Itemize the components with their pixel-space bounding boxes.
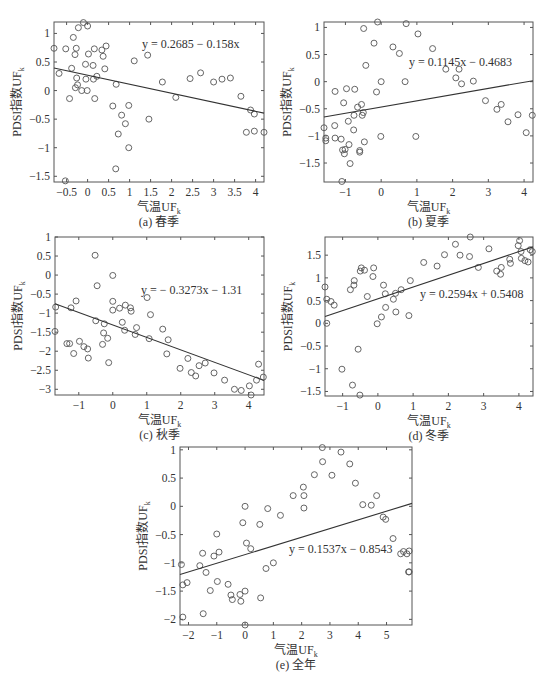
data-point bbox=[452, 241, 458, 247]
x-tick-label: 0 bbox=[378, 186, 384, 198]
x-axis-label: 气温UFk bbox=[138, 412, 181, 429]
x-tick-label: 0 bbox=[375, 400, 381, 412]
data-point bbox=[361, 26, 367, 32]
x-tick-label: −2 bbox=[182, 629, 194, 641]
x-tick-label: 1 bbox=[144, 399, 150, 411]
data-point bbox=[355, 346, 361, 352]
scatter-points bbox=[178, 445, 412, 628]
plot-frame bbox=[325, 237, 533, 396]
data-point bbox=[83, 76, 89, 82]
y-tick-label: −1.5 bbox=[155, 585, 176, 597]
data-point bbox=[482, 98, 488, 104]
data-point bbox=[126, 102, 132, 108]
data-point bbox=[352, 480, 358, 486]
x-axis-label: 气温UFk bbox=[274, 642, 317, 659]
data-point bbox=[393, 309, 399, 315]
x-tick-label: 1.5 bbox=[143, 186, 158, 198]
data-point bbox=[159, 79, 165, 85]
data-point bbox=[383, 304, 389, 310]
data-point bbox=[339, 178, 345, 184]
data-point bbox=[246, 383, 252, 389]
data-point bbox=[219, 76, 225, 82]
data-point bbox=[459, 81, 465, 87]
x-tick-label: 4 bbox=[516, 400, 522, 412]
y-tick-label: 1 bbox=[170, 444, 176, 456]
panel-caption: (a) 春季 bbox=[139, 215, 179, 229]
x-axis-label: 气温UFk bbox=[137, 199, 180, 216]
data-point bbox=[486, 246, 492, 252]
data-point bbox=[146, 116, 152, 122]
x-tick-label: 5 bbox=[384, 629, 390, 641]
data-point bbox=[515, 112, 521, 118]
data-point bbox=[351, 127, 357, 133]
data-point bbox=[211, 370, 217, 376]
data-point bbox=[374, 321, 380, 327]
x-tick-label: 4 bbox=[521, 186, 527, 198]
data-point bbox=[69, 65, 75, 71]
y-axis-label: PDSI指数UFk bbox=[279, 67, 296, 136]
y-tick-label: 0 bbox=[315, 317, 321, 329]
data-point bbox=[361, 139, 367, 145]
data-point bbox=[453, 75, 459, 81]
y-axis-label: PDSI指数UFk bbox=[135, 501, 152, 570]
y-tick-label: 1 bbox=[314, 21, 320, 33]
data-point bbox=[374, 493, 380, 499]
data-point bbox=[390, 296, 396, 302]
regression-line bbox=[54, 68, 264, 113]
x-axis-label: 气温UFk bbox=[407, 199, 450, 216]
data-point bbox=[421, 259, 427, 265]
data-point bbox=[165, 337, 171, 343]
data-point bbox=[378, 79, 384, 85]
data-point bbox=[76, 338, 82, 344]
data-point bbox=[128, 308, 134, 314]
data-point bbox=[320, 459, 326, 465]
data-point bbox=[202, 360, 208, 366]
data-point bbox=[364, 294, 370, 300]
scatter-points bbox=[52, 252, 266, 398]
data-point bbox=[227, 75, 233, 81]
data-point bbox=[363, 62, 369, 68]
data-point bbox=[56, 70, 62, 76]
y-tick-label: 1 bbox=[44, 27, 50, 39]
y-tick-label: 1 bbox=[315, 272, 321, 284]
data-point bbox=[134, 325, 140, 331]
data-point bbox=[63, 46, 69, 52]
y-tick-label: 0 bbox=[314, 76, 320, 88]
panel-e-annual: −2−1012345−2−1.5−1−0.500.51y = 0.1537x −… bbox=[135, 444, 412, 672]
regression-equation: y = 0.1145x − 0.4683 bbox=[409, 55, 512, 69]
data-point bbox=[498, 101, 504, 107]
data-point bbox=[115, 131, 121, 137]
data-point bbox=[378, 314, 384, 320]
data-point bbox=[225, 581, 231, 587]
data-point bbox=[338, 136, 344, 142]
data-point bbox=[300, 484, 306, 490]
y-tick-label: 0.5 bbox=[307, 295, 322, 307]
data-point bbox=[94, 283, 100, 289]
data-point bbox=[329, 472, 335, 478]
x-tick-label: 3 bbox=[212, 399, 218, 411]
data-point bbox=[74, 75, 80, 81]
x-tick-label: −1 bbox=[337, 400, 349, 412]
data-point bbox=[83, 61, 89, 67]
data-point bbox=[346, 142, 352, 148]
data-point bbox=[371, 265, 377, 271]
data-point bbox=[301, 493, 307, 499]
data-point bbox=[270, 560, 276, 566]
x-tick-label: 1 bbox=[414, 186, 420, 198]
data-point bbox=[498, 271, 504, 277]
figure-canvas: −0.500.511.522.533.54−1.5−1−0.500.51y = … bbox=[0, 0, 549, 682]
data-point bbox=[390, 536, 396, 542]
data-point bbox=[100, 341, 106, 347]
scatter-points bbox=[321, 19, 535, 184]
x-tick-label: 3 bbox=[327, 629, 333, 641]
data-point bbox=[103, 43, 109, 49]
data-point bbox=[407, 278, 413, 284]
data-point bbox=[119, 112, 125, 118]
y-tick-label: −1 bbox=[308, 130, 320, 142]
data-point bbox=[344, 86, 350, 92]
data-point bbox=[263, 565, 269, 571]
data-point bbox=[498, 264, 504, 270]
y-tick-label: 0.5 bbox=[37, 250, 52, 262]
data-point bbox=[319, 445, 325, 451]
data-point bbox=[277, 512, 283, 518]
